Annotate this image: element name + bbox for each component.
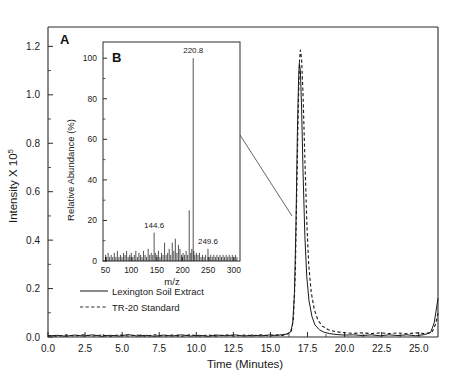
figure-container: 0.02.55.07.510.012.515.017.520.022.525.0… (0, 0, 451, 381)
main-xticklabel: 25.0 (409, 343, 429, 354)
main-ylabel-group: Intensity X 105 (6, 148, 19, 223)
panel-letter-b: B (112, 50, 121, 65)
inset-yticklabel: 40 (88, 175, 98, 185)
legend-label-0: Lexington Soil Extract (112, 286, 204, 297)
inset-xticklabel: 100 (124, 265, 138, 275)
inset-ylabel-group: Relative Abundance (%) (65, 119, 76, 221)
main-yticklabel: 0.4 (26, 235, 40, 246)
inset-yticklabel: 60 (88, 134, 98, 144)
main-xticklabel: 12.5 (224, 343, 244, 354)
main-yticklabel: 0.2 (26, 283, 40, 294)
inset-ylabel: Relative Abundance (%) (65, 119, 76, 221)
inset-peak-label: 249.6 (198, 237, 219, 246)
inset-xlabel: m/z (164, 276, 180, 287)
panel-letter-a: A (60, 32, 70, 47)
inset-xticklabel: 150 (150, 265, 164, 275)
main-xticklabel: 2.5 (78, 343, 92, 354)
main-ylabel: Intensity X 105 (6, 148, 19, 223)
inset-xticklabel: 50 (101, 265, 111, 275)
main-xticklabel: 20.0 (335, 343, 355, 354)
main-xticklabel: 7.5 (152, 343, 166, 354)
main-xlabel: Time (Minutes) (207, 358, 283, 370)
main-yticklabel: 1.0 (26, 89, 40, 100)
main-yticklabel: 1.2 (26, 41, 40, 52)
main-yticklabel: 0.0 (26, 332, 40, 343)
main-xticklabel: 17.5 (298, 343, 318, 354)
main-xticklabel: 10.0 (187, 343, 207, 354)
main-xticklabel: 0.0 (41, 343, 55, 354)
inset-frame (103, 42, 240, 261)
inset-xticklabel: 250 (201, 265, 215, 275)
inset-peak-label: 144.6 (144, 221, 165, 230)
inset-yticklabel: 20 (88, 215, 98, 225)
chromatogram-figure: 0.02.55.07.510.012.515.017.520.022.525.0… (0, 0, 451, 381)
main-yticklabel: 0.6 (26, 186, 40, 197)
main-xticklabel: 5.0 (115, 343, 129, 354)
main-yticklabel: 0.8 (26, 138, 40, 149)
inset-xticklabel: 200 (175, 265, 189, 275)
inset-xticklabel: 300 (227, 265, 241, 275)
main-xticklabel: 15.0 (261, 343, 281, 354)
legend-label-1: TR-20 Standard (112, 302, 180, 313)
inset-yticklabel: 80 (88, 94, 98, 104)
inset-yticklabel: 100 (83, 53, 97, 63)
inset-yticklabel: 0 (92, 256, 97, 266)
main-xticklabel: 22.5 (372, 343, 392, 354)
inset-peak-label: 220.8 (183, 46, 204, 55)
